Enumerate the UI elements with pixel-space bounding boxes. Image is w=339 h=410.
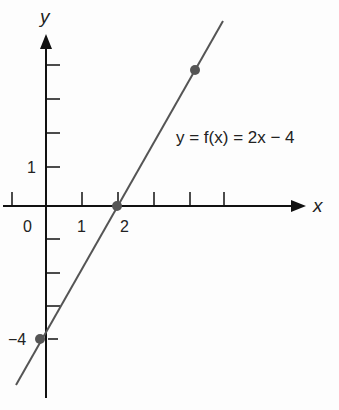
- function-label: y = f(x) = 2x − 4: [176, 128, 295, 147]
- x-tick-label-1: 1: [77, 218, 86, 235]
- function-graph: y x 0 1 2 1 −4 y = f(x) = 2x − 4: [0, 0, 339, 410]
- y-ticks: [46, 65, 60, 339]
- x-axis-label: x: [312, 195, 324, 216]
- x-tick-label-2: 2: [120, 218, 129, 235]
- origin-label: 0: [23, 218, 32, 235]
- y-tick-label-neg4: −4: [8, 331, 26, 348]
- point-x-intercept: [112, 201, 122, 211]
- x-axis-arrow-icon: [291, 200, 306, 212]
- y-axis-label: y: [38, 6, 51, 27]
- point-y-intercept: [35, 334, 45, 344]
- y-axis-arrow-icon: [40, 34, 52, 49]
- y-tick-label-1: 1: [27, 159, 36, 176]
- point-upper: [190, 65, 200, 75]
